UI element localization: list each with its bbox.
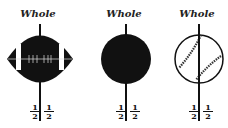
right-half-fraction: 1 2 [203,103,213,120]
panel-baseball: Whole 1 2 1 2 [159,0,228,128]
right-half-fraction: 1 2 [44,103,54,120]
left-half-fraction: 1 2 [189,103,199,120]
right-half-fraction: 1 2 [130,103,140,120]
left-half-fraction: 1 2 [116,103,126,120]
panel-solid-ball: Whole 1 2 1 2 [86,0,162,128]
panel-football: Whole 1 2 1 2 [0,0,76,128]
left-half-fraction: 1 2 [30,103,40,120]
